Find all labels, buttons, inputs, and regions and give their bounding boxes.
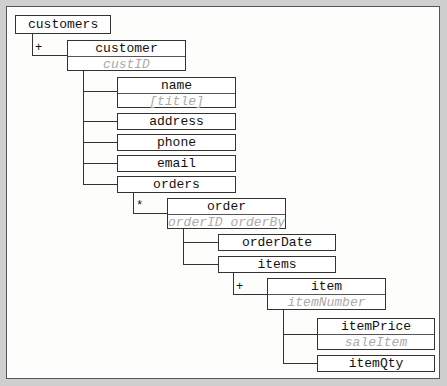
node-customers: customers: [15, 15, 111, 34]
connector: [133, 213, 167, 214]
node-attributes: itemNumber: [268, 294, 385, 310]
cardinality-marker: +: [236, 280, 243, 294]
node-label: itemQty: [318, 356, 434, 371]
node-email: email: [117, 155, 236, 172]
node-itemQty: itemQty: [317, 355, 435, 372]
node-phone: phone: [117, 134, 236, 151]
node-label: orders: [118, 177, 235, 192]
node-attributes: orderID orderBy: [168, 214, 285, 230]
connector: [283, 310, 284, 363]
connector: [183, 242, 218, 243]
node-item: item itemNumber: [267, 278, 386, 310]
connector: [83, 163, 117, 164]
connector: [83, 91, 117, 92]
node-label: order: [168, 199, 285, 214]
node-orderDate: orderDate: [218, 234, 336, 251]
node-items: items: [218, 256, 336, 273]
node-label: itemPrice: [318, 319, 434, 334]
connector: [83, 142, 117, 143]
node-name: name [title]: [117, 77, 236, 108]
cardinality-marker: +: [35, 41, 42, 55]
node-attributes: saleItem: [318, 334, 434, 350]
node-label: items: [219, 257, 335, 272]
node-label: email: [118, 156, 235, 171]
connector: [32, 55, 67, 56]
connector: [283, 334, 317, 335]
node-orders: orders: [117, 176, 236, 193]
connector: [283, 363, 317, 364]
connector: [183, 229, 184, 264]
connector: [233, 272, 234, 294]
connector: [32, 33, 33, 56]
connector: [83, 184, 117, 185]
node-attributes: custID: [68, 56, 185, 72]
connector: [233, 294, 267, 295]
node-label: name: [118, 78, 235, 93]
node-attributes: [title]: [118, 93, 235, 109]
node-label: orderDate: [219, 235, 335, 250]
node-label: address: [118, 114, 235, 129]
node-label: customers: [16, 16, 110, 33]
node-label: phone: [118, 135, 235, 150]
node-order: order orderID orderBy: [167, 198, 286, 229]
connector: [83, 121, 117, 122]
connector: [83, 70, 84, 184]
node-label: customer: [68, 41, 185, 56]
node-label: item: [268, 279, 385, 294]
connector: [183, 264, 218, 265]
node-itemPrice: itemPrice saleItem: [317, 318, 435, 350]
node-address: address: [117, 113, 236, 130]
node-customer: customer custID: [67, 40, 186, 71]
cardinality-marker: *: [136, 199, 143, 213]
connector: [133, 192, 134, 213]
